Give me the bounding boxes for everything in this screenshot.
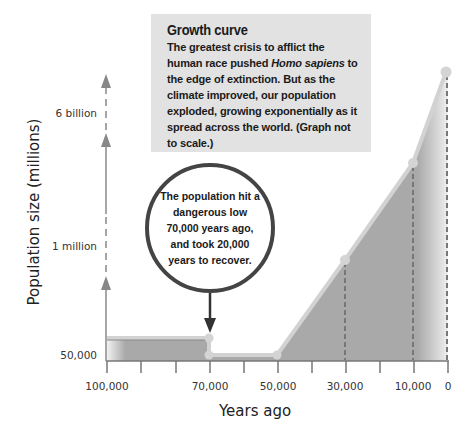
info-title: Growth curve (167, 22, 345, 39)
arrow-up-icon (101, 133, 111, 147)
y-tick-label: 50,000 (60, 349, 97, 361)
callout-arrow (204, 292, 216, 333)
x-tick-label: 100,000 (85, 380, 128, 392)
population-low-callout: The population hit a dangerous low 70,00… (145, 163, 275, 293)
growth-curve-info-box: Growth curve The greatest crisis to affl… (151, 14, 371, 152)
info-body-species: Homo sapiens (271, 57, 344, 69)
x-tick-label: 10,000 (395, 380, 432, 392)
x-tick-label: 70,000 (192, 380, 229, 392)
info-body-text: to the edge of extinction. But as the cl… (167, 57, 358, 149)
y-axis (101, 74, 111, 361)
x-tick-label: 30,000 (327, 380, 364, 392)
x-axis-title: Years ago (218, 402, 291, 420)
arrow-up-icon (101, 276, 111, 290)
arrow-up-icon (101, 74, 111, 88)
info-body: The greatest crisis to afflict the human… (167, 39, 361, 151)
y-tick-label: 6 billion (56, 107, 97, 119)
x-axis (106, 361, 449, 373)
x-tick-label: 0 (445, 380, 452, 392)
y-axis-title: Population size (millions) (25, 119, 43, 306)
y-tick-label: 1 million (52, 240, 97, 252)
arrow-down-icon (204, 318, 216, 333)
x-tick-label: 50,000 (260, 380, 297, 392)
callout-text: The population hit a dangerous low 70,00… (160, 188, 260, 268)
